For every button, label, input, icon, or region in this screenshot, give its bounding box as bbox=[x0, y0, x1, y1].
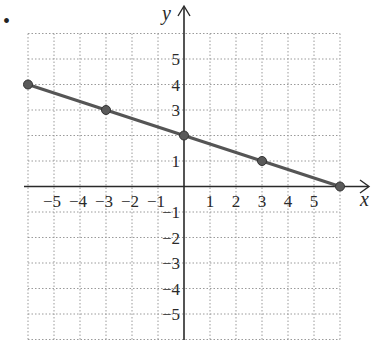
y-tick-label: 3 bbox=[172, 101, 181, 120]
x-tick-label: 3 bbox=[258, 192, 267, 211]
data-point-marker bbox=[102, 106, 111, 115]
y-tick-label: −2 bbox=[162, 229, 180, 248]
x-tick-label: 4 bbox=[284, 192, 293, 211]
x-axis-label: x bbox=[359, 188, 369, 210]
problem-bullet: • bbox=[3, 10, 10, 32]
y-tick-label: −5 bbox=[162, 305, 180, 324]
y-tick-label: −4 bbox=[162, 280, 181, 299]
x-tick-label: −5 bbox=[43, 192, 61, 211]
y-axis-label: y bbox=[160, 2, 171, 25]
x-tick-label: 2 bbox=[232, 192, 241, 211]
x-tick-label: −2 bbox=[121, 192, 139, 211]
y-tick-label: 1 bbox=[172, 152, 181, 171]
y-tick-label: −1 bbox=[162, 203, 180, 222]
x-tick-label: −4 bbox=[69, 192, 88, 211]
x-tick-label: 5 bbox=[310, 192, 319, 211]
coordinate-plane: • −5−4−3−2−1123455431−1−2−3−4−5 x y bbox=[0, 0, 372, 340]
axes bbox=[24, 6, 369, 340]
data-point-marker bbox=[258, 157, 267, 166]
data-point-marker bbox=[336, 182, 345, 191]
data-point-marker bbox=[24, 80, 33, 89]
y-tick-label: −3 bbox=[162, 254, 180, 273]
y-tick-label: 5 bbox=[172, 50, 181, 69]
x-tick-label: 1 bbox=[206, 192, 215, 211]
y-tick-label: 4 bbox=[172, 76, 181, 95]
x-tick-label: −3 bbox=[95, 192, 113, 211]
data-point-marker bbox=[180, 131, 189, 140]
